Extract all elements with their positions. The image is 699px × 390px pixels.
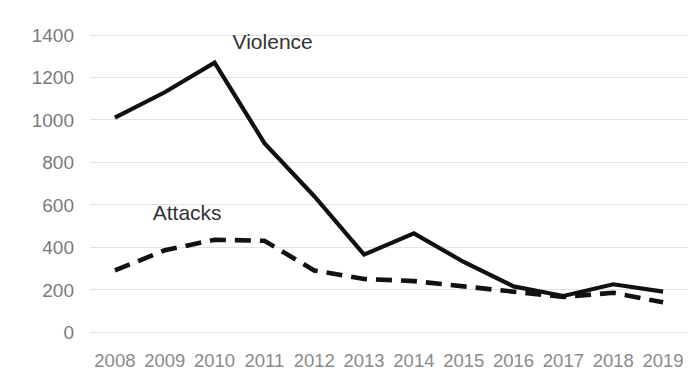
x-axis-tick-label: 2013 — [344, 350, 385, 371]
y-axis-tick-label: 1200 — [32, 67, 74, 88]
x-axis-tick-label: 2019 — [643, 350, 684, 371]
x-axis-tick-label: 2014 — [393, 350, 434, 371]
x-axis-tick-label: 2018 — [593, 350, 634, 371]
y-axis-tick-label: 200 — [42, 280, 74, 301]
series-label-attacks: Attacks — [153, 201, 222, 224]
x-axis-tick-label: 2017 — [543, 350, 584, 371]
series-label-violence: Violence — [233, 30, 313, 53]
x-axis-tick-label: 2011 — [245, 350, 285, 371]
chart-canvas: 0200400600800100012001400 20082009201020… — [0, 0, 699, 390]
x-axis-tick-label: 2008 — [94, 350, 135, 371]
y-axis-tick-label: 0 — [63, 322, 74, 343]
y-axis-tick-label: 800 — [42, 152, 74, 173]
y-axis-tick-label: 1000 — [32, 110, 74, 131]
x-axis-tick-label: 2015 — [443, 350, 484, 371]
y-axis-tick-label: 1400 — [32, 25, 74, 46]
y-axis-tick-label: 600 — [42, 195, 74, 216]
x-axis-tick-label: 2012 — [294, 350, 335, 371]
line-chart: 0200400600800100012001400 20082009201020… — [0, 0, 699, 390]
x-axis-tick-label: 2009 — [144, 350, 185, 371]
y-axis-tick-label: 400 — [42, 237, 74, 258]
x-axis-tick-label: 2010 — [194, 350, 235, 371]
x-axis-tick-label: 2016 — [493, 350, 534, 371]
